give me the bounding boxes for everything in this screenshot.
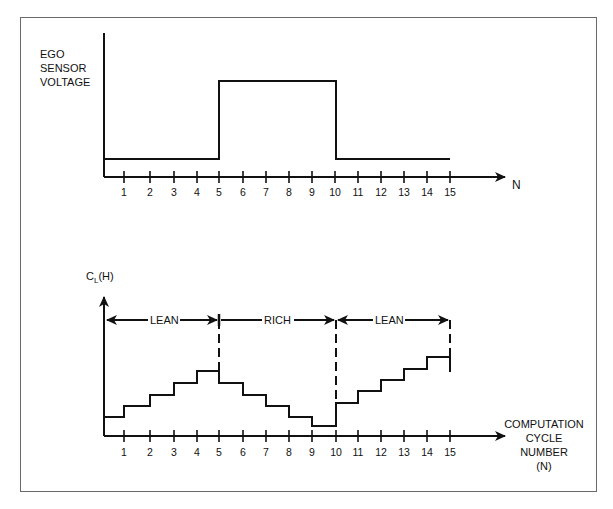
tick-label: 11: [348, 186, 368, 198]
tick-label: 5: [209, 186, 229, 198]
region-dividers: [219, 320, 450, 403]
ego-voltage-signal: [104, 81, 450, 159]
tick-label: 4: [187, 446, 207, 458]
region-label-lean-1: LEAN: [149, 314, 180, 327]
tick-label: 13: [394, 446, 414, 458]
tick-label: 7: [256, 186, 276, 198]
tick-label: 9: [302, 446, 322, 458]
cl-step-signal: [104, 357, 450, 426]
top-ylabel-line-1: EGO: [40, 48, 64, 61]
tick-label: 3: [164, 186, 184, 198]
top-chart: [104, 33, 505, 183]
tick-label: 15: [440, 446, 460, 458]
tick-label: 11: [348, 446, 368, 458]
tick-label: 1: [114, 446, 134, 458]
xlabel-line-1: COMPUTATION: [498, 417, 590, 431]
region-label-rich: RICH: [263, 314, 292, 327]
top-ylabel-line-3: VOLTAGE: [40, 76, 90, 89]
ylabel-main: C: [86, 270, 94, 282]
ylabel-rest: (H): [98, 270, 113, 282]
tick-label: 8: [279, 446, 299, 458]
tick-label: 2: [140, 446, 160, 458]
tick-label: 9: [302, 186, 322, 198]
tick-label: 4: [187, 186, 207, 198]
top-xlabel: N: [512, 179, 521, 192]
region-label-lean-2: LEAN: [374, 314, 405, 327]
top-ylabel-line-2: SENSOR: [40, 62, 86, 75]
tick-label: 6: [233, 446, 253, 458]
tick-label: 7: [256, 446, 276, 458]
tick-label: 12: [371, 446, 391, 458]
tick-label: 13: [394, 186, 414, 198]
xlabel-line-4: (N): [498, 459, 590, 473]
tick-label: 5: [209, 446, 229, 458]
tick-label: 6: [233, 186, 253, 198]
tick-label: 10: [326, 446, 346, 458]
xlabel-line-2: CYCLE: [498, 431, 590, 445]
bottom-xlabel: COMPUTATION CYCLE NUMBER (N): [498, 417, 590, 473]
tick-label: 15: [440, 186, 460, 198]
tick-label: 14: [417, 186, 437, 198]
tick-label: 8: [279, 186, 299, 198]
xlabel-line-3: NUMBER: [498, 445, 590, 459]
tick-label: 10: [325, 186, 345, 198]
tick-label: 14: [417, 446, 437, 458]
bottom-ylabel: CL(H): [86, 270, 114, 287]
tick-label: 2: [140, 186, 160, 198]
tick-label: 12: [371, 186, 391, 198]
tick-label: 1: [114, 186, 134, 198]
tick-label: 3: [164, 446, 184, 458]
